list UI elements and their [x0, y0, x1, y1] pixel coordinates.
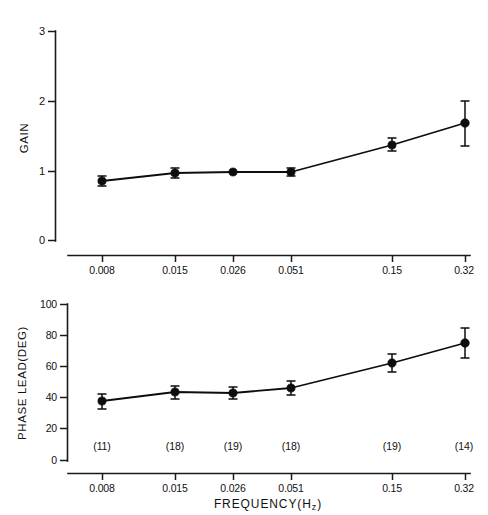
top-x-ticks: [103, 256, 466, 263]
sample-size-annotations: (11) (18) (19) (18) (19) (14): [93, 440, 473, 452]
n-count-5: (14): [455, 440, 473, 452]
bottom-y-ticks: [60, 305, 68, 461]
bottom-xtick-label-5: 0.32: [454, 482, 474, 494]
bottom-datapoint-5: [461, 328, 470, 358]
bottom-data-points: [98, 328, 470, 409]
bottom-xtick-label-3: 0.051: [278, 482, 304, 494]
x-axis-title-end: ): [317, 497, 322, 511]
bottom-x-ticks: [103, 474, 466, 481]
top-datapoint-5: [461, 101, 470, 146]
bottom-ytick-label-40: 40: [46, 391, 58, 403]
bottom-xtick-label-4: 0.15: [382, 482, 402, 494]
bottom-datapoint-0: [98, 394, 107, 409]
bottom-datapoint-3: [287, 381, 296, 395]
top-xtick-label-0: 0.008: [89, 264, 115, 276]
bottom-datapoint-2: [229, 387, 238, 399]
top-xtick-label-2: 0.026: [220, 264, 246, 276]
figure-container: 3 2 1 0 GAIN 0.008 0.015 0.026 0.051 0.: [0, 0, 488, 515]
top-panel-gain: 3 2 1 0 GAIN 0.008 0.015 0.026 0.051 0.: [18, 25, 474, 276]
bottom-y-axis-title: PHASE LEAD(DEG): [16, 326, 28, 440]
top-ytick-label-3: 3: [39, 25, 45, 37]
top-y-ticks: [48, 32, 56, 241]
n-count-3: (18): [282, 440, 300, 452]
bottom-xtick-label-0: 0.008: [89, 482, 115, 494]
top-series-line: [102, 123, 465, 181]
n-count-0: (11): [93, 440, 111, 452]
top-datapoint-4: [388, 138, 397, 151]
n-count-4: (19): [383, 440, 401, 452]
top-datapoint-1: [171, 168, 180, 178]
bottom-ytick-label-20: 20: [46, 422, 58, 434]
top-y-axis-title: GAIN: [18, 123, 30, 154]
bottom-series-line: [102, 343, 465, 401]
bottom-datapoint-1: [171, 386, 180, 399]
top-data-points: [98, 101, 470, 186]
top-datapoint-0: [98, 176, 107, 186]
top-ytick-label-1: 1: [39, 165, 45, 177]
bottom-xtick-label-2: 0.026: [220, 482, 246, 494]
bottom-datapoint-4: [388, 354, 397, 372]
bottom-ytick-label-100: 100: [40, 298, 57, 310]
top-datapoint-2: [229, 168, 237, 176]
n-count-1: (18): [166, 440, 184, 452]
top-ytick-label-0: 0: [39, 234, 45, 246]
bottom-ytick-label-80: 80: [46, 329, 58, 341]
two-panel-chart: 3 2 1 0 GAIN 0.008 0.015 0.026 0.051 0.: [0, 0, 488, 515]
x-axis-title: FREQUENCY(Hz): [214, 497, 322, 512]
top-datapoint-3: [287, 168, 296, 176]
x-axis-title-main: FREQUENCY(H: [214, 497, 312, 511]
top-xtick-label-3: 0.051: [278, 264, 304, 276]
bottom-panel-phase-lead: 100 80 60 40 20 0 PHASE LEAD(DEG) (11) (…: [16, 298, 474, 512]
top-ytick-label-2: 2: [39, 95, 45, 107]
top-xtick-label-1: 0.015: [162, 264, 188, 276]
bottom-xtick-label-1: 0.015: [162, 482, 188, 494]
bottom-ytick-label-60: 60: [46, 360, 58, 372]
n-count-2: (19): [224, 440, 242, 452]
bottom-ytick-label-0: 0: [51, 454, 57, 466]
top-xtick-label-5: 0.32: [454, 264, 474, 276]
top-xtick-label-4: 0.15: [382, 264, 402, 276]
